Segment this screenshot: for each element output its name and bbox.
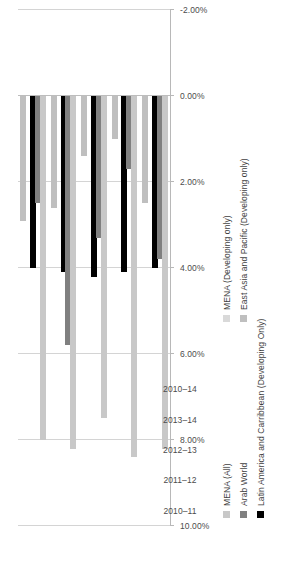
bar bbox=[20, 96, 26, 221]
legend-item[interactable]: Latin America and Carribbean (Developing… bbox=[252, 319, 269, 518]
axis-tick bbox=[170, 353, 174, 354]
category-axis-tick-label: 2010–14 bbox=[163, 384, 197, 394]
legend-swatch-icon bbox=[257, 511, 264, 518]
legend-label: MENA (All) bbox=[222, 463, 232, 506]
chart-canvas: 2010–112011–122012–132013–142010–14 -2.0… bbox=[0, 0, 308, 564]
bar bbox=[131, 96, 137, 457]
category-axis-tick-label: 2011–12 bbox=[163, 475, 196, 485]
legend-item[interactable]: Arab World bbox=[235, 319, 252, 518]
legend-label: East Asia and Pacific (Developing only) bbox=[239, 158, 249, 310]
axis-tick bbox=[170, 95, 174, 96]
bar bbox=[142, 96, 148, 204]
plot-area bbox=[18, 10, 170, 526]
chart-figure: 2010–112011–122012–132013–142010–14 -2.0… bbox=[0, 0, 308, 564]
plot-wrapper: 2010–112011–122012–132013–142010–14 -2.0… bbox=[18, 0, 198, 564]
legend-column-two: MENA (Developing only)East Asia and Paci… bbox=[218, 158, 252, 322]
legend-label: Latin America and Carribbean (Developing… bbox=[256, 319, 266, 506]
axis-tick bbox=[170, 439, 174, 440]
bar bbox=[112, 96, 118, 139]
axis-tick bbox=[170, 181, 174, 182]
category-axis-labels: 2010–112011–122012–132013–142010–14 bbox=[172, 10, 194, 526]
axis-tick bbox=[170, 525, 174, 526]
bar bbox=[51, 96, 57, 208]
legend-swatch-icon bbox=[240, 511, 247, 518]
legend-swatch-icon bbox=[240, 315, 247, 322]
legend-item[interactable]: MENA (Developing only) bbox=[218, 158, 235, 322]
legend-swatch-icon bbox=[223, 315, 230, 322]
legend-column-one: MENA (All)Arab WorldLatin America and Ca… bbox=[218, 319, 269, 518]
bar bbox=[40, 96, 46, 440]
bar bbox=[101, 96, 107, 419]
category-axis-tick-label: 2010–11 bbox=[163, 506, 196, 516]
bar bbox=[70, 96, 76, 449]
legend-label: Arab World bbox=[239, 463, 249, 506]
chart-legend: MENA (All)Arab WorldLatin America and Ca… bbox=[218, 18, 288, 518]
category-axis-tick-label: 2012–13 bbox=[163, 445, 197, 455]
axis-tick bbox=[170, 9, 174, 10]
bar bbox=[162, 96, 168, 449]
axis-tick bbox=[170, 267, 174, 268]
legend-label: MENA (Developing only) bbox=[222, 215, 232, 310]
bar bbox=[81, 96, 87, 156]
legend-swatch-icon bbox=[223, 511, 230, 518]
legend-item[interactable]: East Asia and Pacific (Developing only) bbox=[235, 158, 252, 322]
legend-item[interactable]: MENA (All) bbox=[218, 319, 235, 518]
category-axis-tick-label: 2013–14 bbox=[163, 415, 197, 425]
